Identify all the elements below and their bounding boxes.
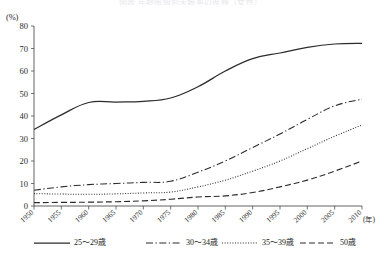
legend-label-1: 30～34歳: [186, 237, 218, 247]
x-tick-label: 1960: [73, 208, 90, 225]
x-tick-label: 1985: [210, 208, 227, 225]
x-tick-label: 1950: [18, 208, 35, 225]
x-tick-label: 1995: [264, 208, 281, 225]
x-tick-label: 1965: [100, 208, 117, 225]
y-tick-label: 70: [20, 44, 29, 54]
y-tick-label: 10: [20, 179, 29, 189]
x-tick-label: 2010: [346, 208, 363, 225]
y-tick-label: 50: [20, 89, 29, 99]
x-tick-label: 1955: [46, 208, 63, 225]
chart-plot-area: 01020304050607080 1950195519601965197019…: [0, 0, 381, 254]
legend-label-0: 25～29歳: [74, 237, 106, 247]
y-tick-label: 40: [20, 111, 29, 121]
series-line-2: [34, 125, 362, 194]
x-tick-label: 2005: [319, 208, 336, 225]
series-line-1: [34, 99, 362, 190]
y-axis-ticks: 01020304050607080: [20, 21, 35, 211]
y-tick-label: 80: [20, 21, 29, 31]
series-line-3: [34, 161, 362, 203]
x-tick-label: 2000: [292, 208, 309, 225]
y-tick-label: 30: [20, 134, 29, 144]
chart-figure: 図表 年齢階級別未婚率の推移（女性） (%) 01020304050607080…: [0, 0, 381, 254]
data-series-group: [34, 43, 362, 202]
y-tick-label: 60: [20, 66, 29, 76]
x-tick-label: 1975: [155, 208, 172, 225]
x-axis-unit-label: (年): [363, 215, 375, 224]
x-axis-ticks: 1950195519601965197019751980198519901995…: [18, 206, 375, 224]
x-tick-label: 1990: [237, 208, 254, 225]
legend-label-2: 35～39歳: [262, 237, 294, 247]
legend-label-3: 50歳: [340, 237, 356, 247]
x-tick-label: 1970: [128, 208, 145, 225]
chart-legend: 25～29歳30～34歳35～39歳50歳: [34, 237, 356, 247]
y-tick-label: 20: [20, 156, 29, 166]
x-tick-label: 1980: [182, 208, 199, 225]
